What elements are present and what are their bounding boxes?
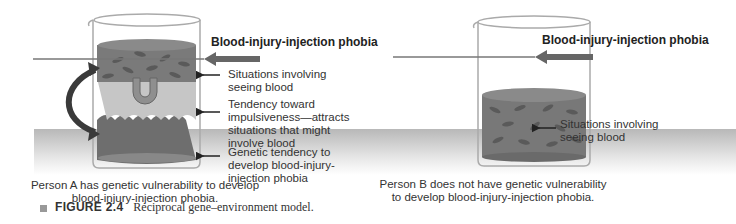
label-situations-b: Situations involving seeing blood — [560, 118, 660, 144]
figure-number: FIGURE 2.4 — [55, 200, 123, 214]
threshold-label-b: Blood-injury-injection phobia — [542, 34, 709, 47]
threshold-label-a: Blood-injury-injection phobia — [211, 36, 378, 49]
beaker-a — [69, 14, 200, 168]
figure-title: Reciprocal gene–environment model. — [133, 200, 313, 214]
caption-square-icon — [40, 205, 47, 212]
threshold-arrow-b-icon — [535, 50, 593, 64]
label-situations-a: Situations involving seeing blood — [228, 68, 328, 94]
label-impulsiveness: Tendency toward impulsiveness—attracts s… — [228, 98, 368, 150]
caption-b: Person B does not have genetic vulnerabi… — [378, 178, 608, 204]
threshold-arrow-a-icon — [204, 52, 260, 66]
figure-caption: FIGURE 2.4Reciprocal gene–environment mo… — [40, 200, 314, 215]
